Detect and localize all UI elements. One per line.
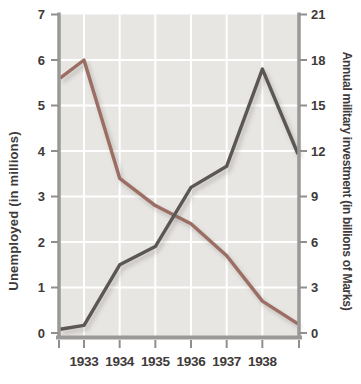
right-tick-label: 6 — [311, 235, 318, 250]
x-tick-label: 1936 — [177, 354, 207, 369]
left-tick-label: 1 — [38, 280, 45, 295]
left-tick-label: 6 — [38, 53, 45, 68]
right-axis-title: Annual military investment (in billions … — [340, 52, 354, 311]
x-tick-label: 1935 — [141, 354, 171, 369]
x-tick-label: 1934 — [105, 354, 135, 369]
left-axis-title: Unemployed (in millions) — [6, 131, 21, 290]
right-tick-label: 0 — [311, 326, 318, 341]
x-tick-label: 1937 — [212, 354, 241, 369]
chart-panel: 0123456703691215182119331934193519361937… — [0, 0, 361, 384]
left-tick-label: 2 — [38, 235, 45, 250]
x-tick-label: 1933 — [70, 354, 100, 369]
right-tick-label: 9 — [311, 189, 318, 204]
right-tick-label: 21 — [311, 7, 325, 22]
left-tick-label: 7 — [38, 7, 45, 22]
right-tick-label: 3 — [311, 280, 318, 295]
right-tick-label: 12 — [311, 144, 325, 159]
right-tick-label: 18 — [311, 53, 325, 68]
line-chart: 0123456703691215182119331934193519361937… — [0, 0, 361, 384]
left-tick-label: 5 — [38, 98, 45, 113]
x-tick-label: 1938 — [248, 354, 278, 369]
left-tick-label: 4 — [38, 144, 46, 159]
left-tick-label: 3 — [38, 189, 45, 204]
left-tick-label: 0 — [38, 326, 45, 341]
right-tick-label: 15 — [311, 98, 325, 113]
